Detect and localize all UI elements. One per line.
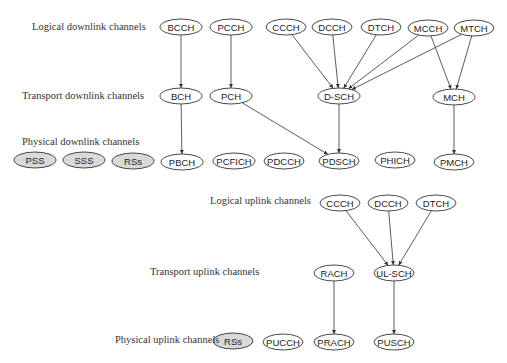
node-label: PCCH xyxy=(218,22,245,33)
node-ul-dtch: DTCH xyxy=(416,195,456,211)
node-pbch: PBCH xyxy=(161,154,203,170)
node-label: SSS xyxy=(74,155,93,166)
node-dl-mtch: MTCH xyxy=(454,20,494,36)
node-dl-bcch: BCCH xyxy=(160,19,202,35)
node-pdcch: PDCCH xyxy=(264,153,304,169)
node-label: PUCCH xyxy=(266,337,300,348)
edges-layer xyxy=(181,34,472,334)
node-pucch: PUCCH xyxy=(263,334,303,350)
node-label: DTCH xyxy=(368,22,395,33)
node-dl-ccch: CCCH xyxy=(266,19,306,35)
edge-ul-dcch-to-ulsch xyxy=(389,211,394,265)
node-label: CCCH xyxy=(272,22,300,33)
layer-labels: Logical downlink channelsTransport downl… xyxy=(22,21,311,345)
node-dl-dtch: DTCH xyxy=(361,19,401,35)
node-dl-rss: RSs xyxy=(112,153,154,169)
node-prach: PRACH xyxy=(314,334,354,350)
layer-label-transport-downlink: Transport downlink channels xyxy=(22,90,144,101)
node-label: PDSCH xyxy=(322,156,355,167)
node-dl-pcch: PCCH xyxy=(210,19,252,35)
node-label: BCCH xyxy=(168,22,195,33)
node-label: RSs xyxy=(224,336,242,347)
node-label: RACH xyxy=(321,268,348,279)
edge-ul-ccch-to-ulsch xyxy=(346,211,388,266)
node-ul-dcch: DCCH xyxy=(368,195,408,211)
layer-label-physical-downlink: Physical downlink channels xyxy=(22,136,139,147)
node-label: PUSCH xyxy=(377,337,410,348)
node-pss: PSS xyxy=(14,152,56,168)
node-pcfich: PCFICH xyxy=(213,153,255,169)
node-dl-mcch: MCCH xyxy=(408,20,448,36)
edge-dl-mcch-to-mch xyxy=(431,36,451,89)
node-pdsch: PDSCH xyxy=(319,153,359,169)
node-label: D-SCH xyxy=(324,91,354,102)
layer-label-physical-uplink: Physical uplink channels xyxy=(115,334,219,345)
layer-label-logical-uplink: Logical uplink channels xyxy=(210,195,311,206)
edge-pch-to-pdsch xyxy=(242,103,328,155)
edge-dl-mtch-to-dsch xyxy=(352,34,462,89)
layer-label-logical-downlink: Logical downlink channels xyxy=(32,21,146,32)
node-bch: BCH xyxy=(160,88,202,104)
node-dsch: D-SCH xyxy=(318,88,360,104)
node-rach: RACH xyxy=(314,265,354,281)
edge-bch-to-pbch xyxy=(181,104,182,154)
node-sss: SSS xyxy=(63,152,105,168)
channel-mapping-diagram: BCCHPCCHCCCHDCCHDTCHMCCHMTCHBCHPCHD-SCHM… xyxy=(0,0,507,363)
node-ulsch: UL-SCH xyxy=(374,265,414,281)
node-mch: MCH xyxy=(433,89,475,105)
node-label: MCH xyxy=(443,92,465,103)
node-label: PHICH xyxy=(380,155,410,166)
node-label: PCFICH xyxy=(216,156,252,167)
edge-dl-mcch-to-dsch xyxy=(348,35,418,89)
node-pusch: PUSCH xyxy=(374,334,414,350)
edge-dl-dcch-to-dsch xyxy=(333,35,338,88)
node-label: PRACH xyxy=(317,337,350,348)
node-label: DCCH xyxy=(318,22,346,33)
node-label: CCCH xyxy=(326,198,354,209)
node-label: PBCH xyxy=(169,157,196,168)
edge-dl-mtch-to-mch xyxy=(456,36,471,89)
edge-dl-ccch-to-dsch xyxy=(292,35,333,89)
node-label: MTCH xyxy=(460,23,488,34)
node-label: PDCCH xyxy=(267,156,301,167)
node-ul-ccch: CCCH xyxy=(320,195,360,211)
node-label: DCCH xyxy=(374,198,402,209)
node-pmch: PMCH xyxy=(434,154,474,170)
node-label: PSS xyxy=(25,155,44,166)
node-label: PMCH xyxy=(440,157,468,168)
node-pch: PCH xyxy=(210,88,252,104)
edge-ul-dtch-to-ulsch xyxy=(399,211,432,265)
node-label: MCCH xyxy=(414,23,443,34)
node-label: DTCH xyxy=(423,198,450,209)
node-phich: PHICH xyxy=(375,152,415,168)
nodes-layer: BCCHPCCHCCCHDCCHDTCHMCCHMTCHBCHPCHD-SCHM… xyxy=(14,19,494,350)
node-dl-dcch: DCCH xyxy=(312,19,352,35)
node-label: PCH xyxy=(221,91,241,102)
node-label: BCH xyxy=(171,91,191,102)
node-label: RSs xyxy=(124,156,142,167)
layer-label-transport-uplink: Transport uplink channels xyxy=(150,266,259,277)
node-label: UL-SCH xyxy=(376,268,412,279)
